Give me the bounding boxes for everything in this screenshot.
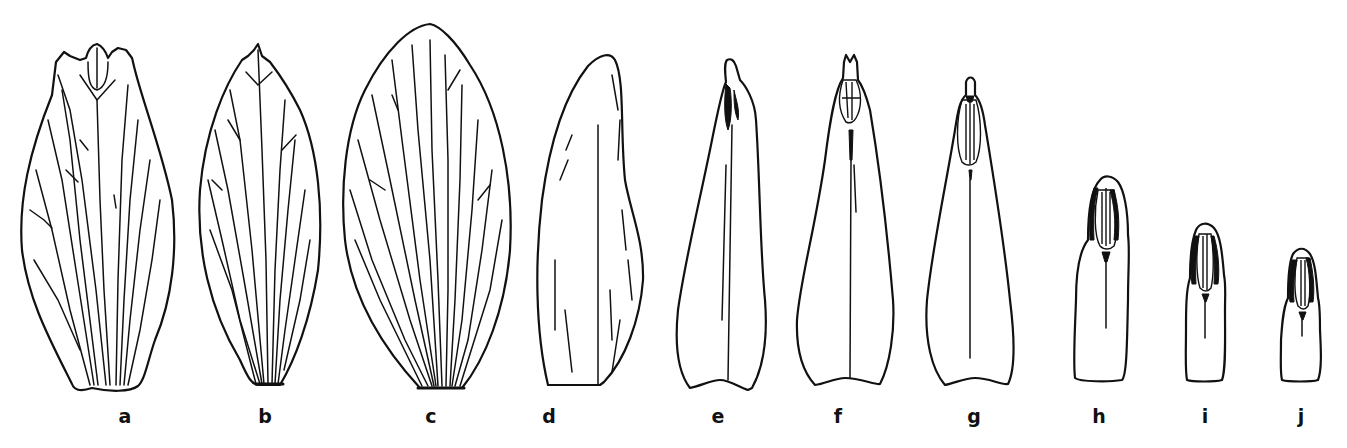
panel-c-label: c bbox=[425, 405, 436, 427]
panel-i-label: i bbox=[1202, 405, 1209, 427]
panel-b-label: b bbox=[258, 405, 272, 427]
panel-c-petal-drawing bbox=[343, 24, 510, 388]
panel-d-label: d bbox=[542, 405, 556, 427]
panel-b-petal-drawing bbox=[199, 44, 320, 385]
panel-f-label: f bbox=[834, 405, 842, 427]
panel-h-label: h bbox=[1092, 405, 1106, 427]
panel-i-stamen-drawing bbox=[1186, 224, 1226, 382]
petal-stamen-series-figure: a b c d e f g h i j bbox=[0, 0, 1347, 448]
panel-h-stamen-drawing bbox=[1074, 176, 1129, 381]
panel-f-staminode-drawing bbox=[797, 55, 894, 385]
panel-e-label: e bbox=[712, 405, 725, 427]
panel-d-petal-drawing bbox=[537, 55, 643, 385]
panel-g-staminode-drawing bbox=[926, 78, 1013, 386]
panel-e-staminode-drawing bbox=[677, 59, 766, 390]
panel-a-label: a bbox=[119, 405, 132, 427]
panel-g-label: g bbox=[967, 405, 981, 427]
panel-j-label: j bbox=[1298, 405, 1305, 427]
panel-j-stamen-drawing bbox=[1281, 249, 1321, 382]
panel-a-petal-drawing bbox=[21, 44, 174, 391]
botanical-drawing bbox=[0, 0, 1347, 448]
